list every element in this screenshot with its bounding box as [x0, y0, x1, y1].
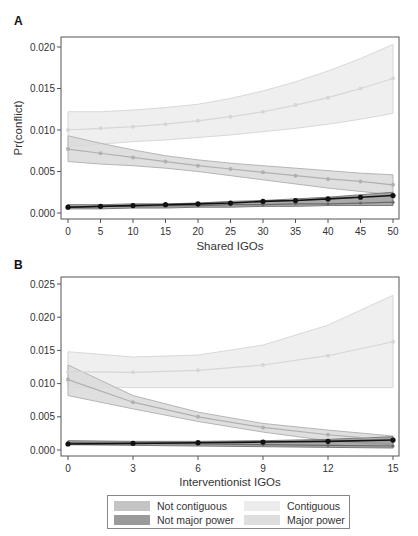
y-tick-label: 0.005: [30, 411, 55, 422]
y-tick-label: 0.015: [30, 83, 55, 94]
data-point: [164, 122, 168, 126]
data-point: [260, 199, 265, 204]
data-point: [65, 441, 70, 446]
data-point: [391, 77, 395, 81]
data-point: [261, 170, 265, 174]
y-tick-label: 0.005: [30, 166, 55, 177]
y-axis-title: Pr(conflict): [12, 100, 24, 155]
data-point: [98, 204, 103, 209]
data-point: [326, 202, 329, 205]
legend-label: Contiguous: [287, 500, 340, 512]
data-point: [326, 177, 330, 181]
data-point: [261, 110, 265, 114]
data-point: [195, 201, 200, 206]
x-tick-label: 30: [257, 226, 269, 237]
legend: Not contiguous Not major power Contiguou…: [107, 495, 350, 529]
data-point: [196, 415, 200, 419]
data-point: [195, 440, 200, 445]
chart-canvas: 0.0000.0050.0100.0150.020051015202530354…: [0, 0, 418, 536]
x-tick-label: 50: [387, 226, 399, 237]
chart-panel-a: 0.0000.0050.0100.0150.020051015202530354…: [12, 37, 399, 252]
data-point: [99, 151, 103, 155]
data-point: [359, 87, 363, 91]
y-tick-label: 0.020: [30, 312, 55, 323]
data-point: [391, 183, 395, 187]
data-point: [66, 147, 70, 151]
data-point: [228, 200, 233, 205]
x-axis-title: Interventionist IGOs: [179, 476, 281, 488]
data-point: [131, 400, 135, 404]
y-tick-label: 0.025: [30, 279, 55, 290]
data-point: [99, 126, 103, 130]
data-point: [130, 441, 135, 446]
legend-item-contiguous: Contiguous: [244, 499, 340, 513]
legend-swatch: [114, 501, 150, 511]
legend-label: Not major power: [157, 514, 234, 526]
x-axis-title: Shared IGOs: [196, 240, 263, 252]
legend-swatch: [114, 515, 150, 525]
data-point: [390, 437, 395, 442]
x-tick-label: 25: [225, 226, 237, 237]
data-point: [196, 164, 200, 168]
data-point: [391, 201, 394, 204]
data-point: [391, 340, 395, 344]
data-point: [390, 193, 395, 198]
y-tick-label: 0.015: [30, 345, 55, 356]
data-point: [359, 201, 362, 204]
data-point: [294, 174, 298, 178]
data-point: [293, 198, 298, 203]
legend-item-major-power: Major power: [244, 513, 345, 527]
data-point: [391, 444, 394, 447]
data-point: [131, 125, 135, 129]
data-point: [66, 128, 70, 132]
x-tick-label: 3: [130, 463, 136, 474]
y-tick-label: 0.020: [30, 42, 55, 53]
legend-label: Major power: [287, 514, 345, 526]
data-point: [229, 167, 233, 171]
legend-item-not-contiguous: Not contiguous: [114, 499, 227, 513]
legend-swatch: [244, 515, 280, 525]
ci-band: [68, 295, 393, 387]
x-tick-label: 6: [195, 463, 201, 474]
data-point: [358, 195, 363, 200]
data-point: [130, 203, 135, 208]
x-tick-label: 12: [322, 463, 334, 474]
data-point: [66, 378, 70, 382]
data-point: [196, 119, 200, 123]
x-tick-label: 45: [355, 226, 367, 237]
ci-band: [68, 136, 393, 195]
x-tick-label: 40: [322, 226, 334, 237]
data-point: [325, 196, 330, 201]
x-tick-label: 0: [65, 226, 71, 237]
data-point: [131, 155, 135, 159]
y-tick-label: 0.010: [30, 378, 55, 389]
x-tick-label: 0: [65, 463, 71, 474]
x-tick-label: 10: [127, 226, 139, 237]
data-point: [359, 179, 363, 183]
x-tick-label: 20: [192, 226, 204, 237]
data-point: [261, 363, 265, 367]
ci-band: [68, 45, 393, 147]
legend-label: Not contiguous: [157, 500, 227, 512]
data-point: [326, 444, 329, 447]
data-point: [294, 103, 298, 107]
x-tick-label: 35: [290, 226, 302, 237]
data-point: [261, 425, 265, 429]
x-tick-label: 9: [260, 463, 266, 474]
y-tick-label: 0.000: [30, 445, 55, 456]
legend-item-not-major-power: Not major power: [114, 513, 234, 527]
data-point: [326, 96, 330, 100]
legend-swatch: [244, 501, 280, 511]
data-point: [326, 354, 330, 358]
data-point: [164, 160, 168, 164]
chart-panel-b: 0.0000.0050.0100.0150.0200.02503691215In…: [30, 277, 399, 488]
data-point: [229, 115, 233, 119]
data-point: [326, 433, 330, 437]
data-point: [260, 439, 265, 444]
x-tick-label: 5: [98, 226, 104, 237]
data-point: [65, 205, 70, 210]
data-point: [131, 370, 135, 374]
y-tick-label: 0.010: [30, 125, 55, 136]
data-point: [196, 368, 200, 372]
data-point: [325, 439, 330, 444]
